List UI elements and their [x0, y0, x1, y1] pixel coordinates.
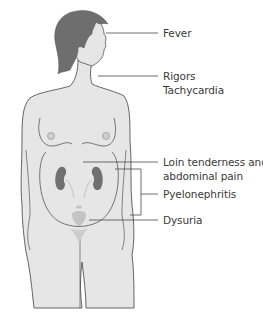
- label-fever: Fever: [163, 26, 191, 40]
- pyelonephritis-diagram: Fever Rigors Tachycardia Loin tenderness…: [0, 0, 263, 313]
- label-tachycardia: Tachycardia: [163, 83, 224, 97]
- label-loin-tenderness: Loin tenderness and: [163, 155, 263, 169]
- label-pyelonephritis: Pyelonephritis: [163, 187, 236, 201]
- label-abdominal-pain: abdominal pain: [163, 169, 243, 183]
- label-dysuria: Dysuria: [163, 213, 202, 227]
- label-rigors: Rigors: [163, 69, 196, 83]
- body-outline: [21, 60, 134, 308]
